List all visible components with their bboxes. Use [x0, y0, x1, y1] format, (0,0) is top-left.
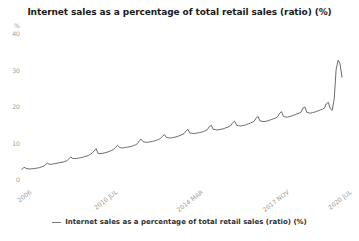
y-axis-tick-label: 40 — [12, 30, 20, 37]
y-axis-tick-label: 0 — [16, 176, 20, 183]
x-axis-tick-label: 2006 — [16, 188, 33, 203]
x-axis-tick-label: 2020 JUL — [327, 188, 354, 212]
line-chart: %01020304020062010 JUL2014 MAR2017 NOV20… — [0, 0, 359, 214]
y-axis-unit-label: % — [14, 22, 20, 29]
chart-panel: Internet sales as a percentage of total … — [0, 0, 359, 241]
y-axis-tick-label: 20 — [12, 103, 20, 110]
chart-legend: Internet sales as a percentage of total … — [0, 218, 359, 226]
legend-line-marker-icon — [52, 222, 61, 223]
x-axis-tick-label: 2017 NOV — [261, 188, 291, 213]
y-axis-tick-label: 30 — [12, 67, 20, 74]
internet-sales-line-series — [22, 60, 342, 169]
legend-label: Internet sales as a percentage of total … — [65, 218, 307, 226]
y-axis-tick-label: 10 — [12, 140, 20, 147]
x-axis-tick-label: 2010 JUL — [92, 188, 119, 212]
x-axis-tick-label: 2014 MAR — [175, 188, 205, 213]
